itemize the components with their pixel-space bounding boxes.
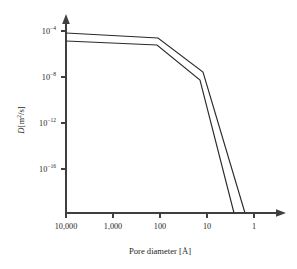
y-tick-label-mantissa: 10 [42, 27, 50, 36]
x-tick-label: 10 [203, 222, 211, 231]
x-axis-title: Pore diameter [Å] [129, 246, 191, 256]
y-axis-title-close: /s] [16, 106, 26, 115]
data-line-upper [66, 33, 245, 213]
y-tick-label: 10−16 [39, 163, 56, 174]
y-tick-label-mantissa: 10 [39, 119, 47, 128]
y-tick-label-exponent: −8 [50, 71, 56, 77]
y-tick-label: 10−12 [39, 117, 56, 128]
x-tick-label: 1,000 [104, 222, 122, 231]
x-tick-labels: 10,000 1,000 100 10 1 [55, 222, 256, 231]
data-series-group [66, 33, 245, 213]
y-tick-label-exponent: −4 [50, 25, 56, 31]
y-tick-label-mantissa: 10 [42, 73, 50, 82]
axes-group [62, 14, 286, 217]
x-tick-label: 1 [252, 222, 256, 231]
x-tick-marks [66, 213, 254, 218]
y-tick-marks [61, 31, 66, 169]
y-tick-labels: 10−4 10−8 10−12 10−16 [39, 25, 56, 174]
y-axis-arrow-icon [62, 14, 70, 24]
y-tick-label-mantissa: 10 [39, 165, 47, 174]
y-tick-label: 10−8 [42, 71, 56, 82]
y-axis-title-open: [m [16, 118, 26, 128]
x-tick-label: 100 [154, 222, 166, 231]
diffusion-pore-diameter-chart: 10−4 10−8 10−12 10−16 10,000 1,000 100 1… [0, 0, 297, 269]
y-tick-label-exponent: −12 [47, 117, 56, 123]
x-tick-label: 10,000 [55, 222, 78, 231]
y-axis-title: D[m2/s] [16, 106, 26, 134]
y-tick-label: 10−4 [42, 25, 56, 36]
y-tick-label-exponent: −16 [47, 163, 56, 169]
x-axis-arrow-icon [276, 209, 286, 217]
chart-figure: 10−4 10−8 10−12 10−16 10,000 1,000 100 1… [0, 0, 297, 269]
data-line-lower [66, 41, 234, 213]
